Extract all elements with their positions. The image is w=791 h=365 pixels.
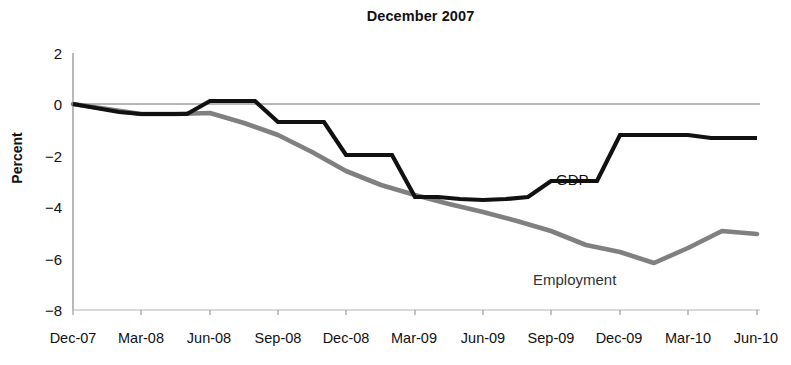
series-line-employment — [73, 104, 757, 263]
chart-figure: December 2007 Percent 2 0 −2 −4 −6 −8 De… — [0, 0, 791, 365]
plot-area — [0, 0, 791, 365]
series-line-gdp — [73, 101, 757, 200]
x-axis-ticks — [73, 310, 757, 315]
